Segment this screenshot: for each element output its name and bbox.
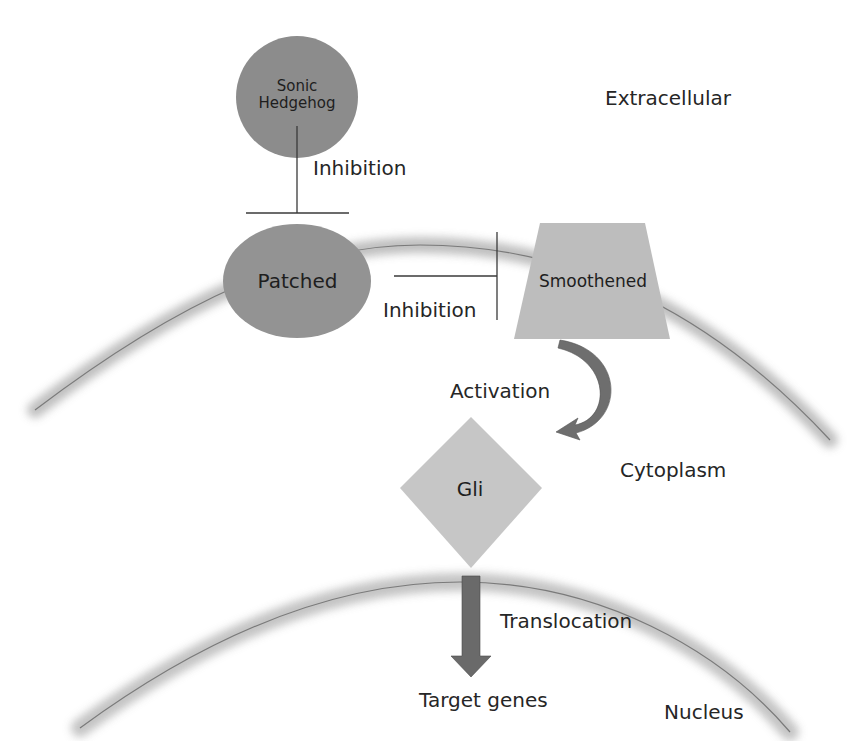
activation-label: Activation [450,381,550,401]
nucleus-label: Nucleus [664,702,744,722]
inhibition-label-2: Inhibition [383,300,476,320]
target-genes-label: Target genes [419,690,548,710]
translocation-label: Translocation [500,611,632,631]
smoothened-label: Smoothened [518,272,668,292]
extracellular-label: Extracellular [605,88,731,108]
gli-label: Gli [430,478,510,501]
sonic-hedgehog-line1: Sonic [247,78,347,95]
cytoplasm-label: Cytoplasm [620,460,726,480]
sonic-hedgehog-line2: Hedgehog [247,95,347,112]
patched-label: Patched [225,270,370,293]
activation-arrow [556,340,611,440]
sonic-hedgehog-label: Sonic Hedgehog [247,78,347,113]
inhibition-label-1: Inhibition [313,158,406,178]
pathway-diagram [0,0,861,741]
cell-membrane [35,245,830,440]
